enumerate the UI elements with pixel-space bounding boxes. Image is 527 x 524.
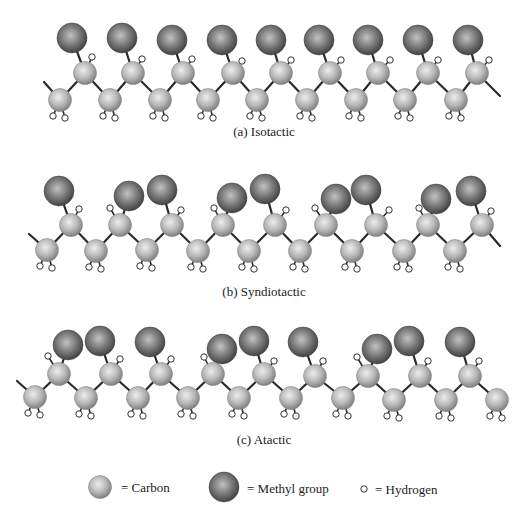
carbon-atom [383,389,406,412]
carbon-atom [228,387,251,410]
methyl-group [44,176,74,206]
carbon-atom [319,62,342,85]
hydrogen-atom [384,413,390,419]
hydrogen-atom [283,207,289,213]
methyl-group [421,184,451,214]
carbon-atom [222,62,245,85]
carbon-atom [177,387,200,410]
hydrogen-atom [386,207,392,213]
hydrogen-atom [76,411,82,417]
methyl-group [57,23,87,53]
methyl-group [445,327,475,357]
methyl-group [304,25,334,55]
methyl-group [217,183,247,213]
hydrogen-atom [198,113,204,119]
methyl-group [362,334,392,364]
hydrogen-atom [241,413,247,419]
carbon-atom [367,62,390,85]
hydrogen-atom [309,115,315,121]
hydrogen-atom [200,266,206,272]
hydrogen-atom [25,410,31,416]
carbon-atom [486,389,509,412]
legend-carbon-icon [89,476,112,499]
carbon-atom [345,89,368,112]
hydrogen-atom [107,205,113,211]
hydrogen-atom [445,264,451,270]
hydrogen-atom [247,113,253,119]
carbon-atom [99,89,122,112]
carbon-atom [161,214,184,237]
carbon-atom [36,239,59,262]
hydrogen-atom [342,264,348,270]
methyl-group [394,326,424,356]
carbon-atom [60,214,83,237]
hydrogen-atom [448,415,454,421]
carbon-atom [202,363,225,386]
legend-methyl-label: = Methyl group [247,481,329,497]
carbon-atom [100,363,123,386]
carbon-atom [296,89,319,112]
hydrogen-atom [239,264,245,270]
carbon-atom [197,89,220,112]
hydrogen-atom [457,266,463,272]
hydrogen-atom [458,115,464,121]
carbon-atom [409,365,432,388]
hydrogen-atom [50,113,56,119]
hydrogen-atom [354,354,360,360]
hydrogen-atom [486,57,492,63]
hydrogen-atom [86,264,92,270]
hydrogen-atom [406,266,412,272]
hydrogen-atom [140,413,146,419]
hydrogen-atom [112,115,118,121]
hydrogen-atom [395,113,401,119]
hydrogen-atom [416,205,422,211]
carbon-atom [122,62,145,85]
carbon-atom [49,89,72,112]
methyl-group [351,175,381,205]
hydrogen-atom [290,264,296,270]
carbon-atom [264,214,287,237]
hydrogen-atom [37,412,43,418]
hydrogen-atom [488,208,494,214]
carbon-atom [459,365,482,388]
hydrogen-atom [139,56,145,62]
hydrogen-atom [189,56,195,62]
carbon-atom [270,62,293,85]
methyl-group [288,327,318,357]
carbon-atom [172,62,195,85]
carbons-layer [24,62,509,412]
hydrogen-atom [229,411,235,417]
methyl-group [207,25,237,55]
carbon-atom [212,214,235,237]
hydrogen-atom [476,358,482,364]
hydrogen-atom [149,265,155,271]
hydrogen-atom [346,113,352,119]
carbon-atom [466,62,489,85]
hydrogen-atom [446,113,452,119]
hydrogen-atom [210,115,216,121]
carbon-atom [394,89,417,112]
hydrogen-atom [211,205,217,211]
methyl-group [453,25,483,55]
methyl-group [250,174,280,204]
hydrogen-atom [89,54,95,60]
carbon-atom [75,387,98,410]
methyl-group [353,25,383,55]
hydrogen-atom [297,113,303,119]
methyl-group [207,334,237,364]
tacticity-diagram: (a) Isotactic (b) Syndiotactic (c) Atact… [0,0,527,524]
hydrogen-atom [49,265,55,271]
carbon-atom [341,240,364,263]
hydrogen-atom [320,358,326,364]
carbon-atom [289,240,312,263]
hydrogen-atom [190,413,196,419]
carbon-atom [444,240,467,263]
methyl-group [321,184,351,214]
carbon-atom [304,365,327,388]
legend-methyl-icon [209,472,239,502]
legend-hydrogen-icon [361,486,367,492]
hydrogen-atom [201,354,207,360]
carbon-atom [253,363,276,386]
hydrogen-atom [387,57,393,63]
methyl-group [239,326,269,356]
